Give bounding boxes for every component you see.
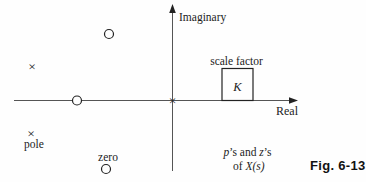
scale-factor-symbol: K [232,80,242,94]
zero-marker-icon [102,165,111,174]
pole-label: pole [24,138,44,151]
note-mid: ’s and [229,146,259,158]
figure-note-line2: of X(s) [233,160,265,173]
real-axis-label: Real [276,104,299,118]
pole-zero-plot: Imaginary Real scale factor K × × × pole… [0,0,366,182]
figure-caption: Fig. 6-13 [310,158,365,173]
scale-factor-label: scale factor [210,55,263,67]
zero-label: zero [98,151,118,163]
note-of: of [233,160,245,172]
imaginary-axis-arrow-icon [169,4,176,13]
pole-marker-icon: × [28,59,36,74]
zero-marker-icon [73,96,82,105]
note-end: ’s [264,146,272,158]
figure-note-line1: p’s and z’s [223,146,272,159]
figure-canvas: Imaginary Real scale factor K × × × pole… [0,0,366,182]
pole-marker-origin-icon: × [169,93,177,108]
imaginary-axis-label: Imaginary [179,11,227,24]
zero-marker-icon [105,30,114,39]
note-xs: X(s) [244,160,264,173]
